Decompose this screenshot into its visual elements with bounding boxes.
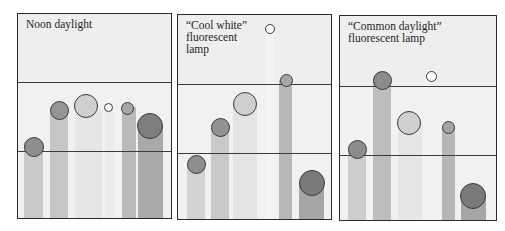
spectral-bar (348, 149, 366, 220)
spectral-bar (211, 128, 229, 219)
intensity-circle (104, 103, 113, 112)
spectral-bar (266, 31, 274, 219)
panel-cool-white-fluorescent: “Cool white” fluorescent lamp (177, 14, 332, 220)
reference-line (18, 82, 171, 83)
spectral-bar (398, 124, 422, 220)
intensity-circle (299, 170, 325, 196)
spectral-bar (373, 81, 391, 220)
panel-noon-daylight: Noon daylight (17, 13, 172, 219)
intensity-circle (187, 155, 206, 174)
intensity-circle (233, 92, 257, 116)
intensity-circle (426, 71, 437, 82)
intensity-circle (211, 118, 230, 137)
intensity-circle (24, 137, 44, 157)
spectral-bar (122, 107, 136, 218)
intensity-circle (280, 74, 293, 87)
spectral-bar (442, 127, 455, 220)
panel-common-daylight-fluorescent: “Common daylight” fluorescent lamp (339, 15, 497, 221)
reference-line (178, 84, 331, 85)
intensity-circle (442, 121, 455, 134)
reference-line (340, 86, 496, 87)
intensity-circle (137, 113, 163, 139)
panel-title: Noon daylight (26, 18, 92, 30)
spectral-bar (279, 80, 292, 219)
spectral-bar (233, 104, 257, 219)
intensity-circle (74, 94, 98, 118)
intensity-circle (373, 71, 392, 90)
panel-title: “Cool white” fluorescent lamp (186, 19, 247, 55)
intensity-circle (265, 24, 275, 34)
spectral-bar (75, 109, 102, 218)
intensity-circle (397, 111, 421, 135)
intensity-circle (50, 101, 69, 120)
panel-title: “Common daylight” fluorescent lamp (348, 20, 442, 44)
spectral-bar (105, 112, 115, 218)
intensity-circle (348, 140, 367, 159)
intensity-circle (460, 183, 486, 209)
intensity-circle (121, 102, 134, 115)
spectral-bar (50, 113, 68, 218)
spectral-bar (138, 126, 163, 218)
reference-line (178, 153, 331, 154)
spectral-bar (424, 78, 432, 220)
